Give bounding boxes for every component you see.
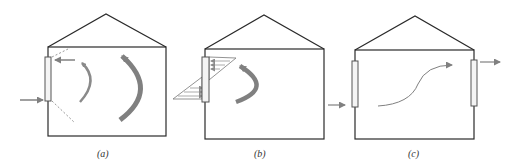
panel-b — [173, 15, 345, 139]
window-c-right — [471, 60, 477, 106]
house-wall-c — [355, 50, 474, 139]
panel-c — [352, 16, 500, 139]
house-roof-a — [48, 14, 166, 47]
small-recirculation-arrow-icon — [80, 63, 91, 102]
house-roof-c — [355, 16, 474, 50]
dashed-outflow-line — [52, 48, 70, 57]
caption-a: (a) — [97, 148, 109, 159]
caption-b: (b) — [254, 148, 266, 159]
large-recirculation-arrow-icon — [120, 56, 141, 120]
ventilation-diagram: (a) (b) (c) — [0, 0, 518, 167]
recirculation-arrow-icon — [236, 66, 257, 102]
cross-flow-arrow-icon — [378, 65, 452, 106]
window-a — [45, 57, 51, 101]
caption-c: (c) — [408, 148, 419, 159]
panel-a — [20, 14, 166, 136]
window-b — [202, 57, 209, 102]
house-roof-b — [205, 15, 324, 49]
dashed-inflow-line — [52, 101, 75, 123]
outflow-velocity-profile — [209, 57, 236, 80]
window-c-left — [352, 61, 358, 107]
house-wall-b — [205, 49, 324, 139]
